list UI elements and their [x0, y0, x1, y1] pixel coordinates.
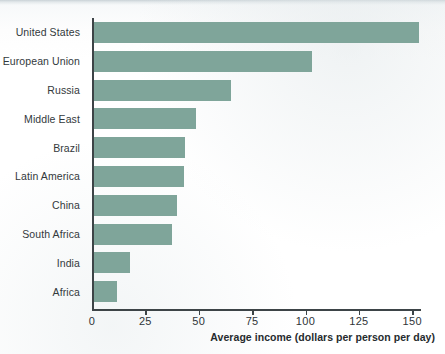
plot-area: [92, 18, 432, 310]
category-label: China: [0, 191, 86, 220]
x-tick-label: 25: [139, 315, 152, 327]
x-axis-title: Average income (dollars per person per d…: [0, 331, 441, 343]
category-label: India: [0, 248, 86, 277]
bar: [94, 22, 419, 43]
x-tick-label: 50: [192, 315, 205, 327]
category-label: Africa: [0, 277, 86, 306]
bar: [94, 166, 184, 187]
category-label: Brazil: [0, 133, 86, 162]
bar: [94, 252, 130, 273]
bar: [94, 281, 117, 302]
x-tick-label: 125: [349, 315, 368, 327]
bar: [94, 80, 231, 101]
x-tick-label: 100: [296, 315, 315, 327]
bar-row: [94, 104, 432, 133]
bar-row: [94, 191, 432, 220]
category-label: United States: [0, 18, 86, 47]
category-axis-labels: United StatesEuropean UnionRussiaMiddle …: [0, 18, 86, 306]
bar-row: [94, 133, 432, 162]
x-tick-label: 150: [403, 315, 422, 327]
category-label: Russia: [0, 76, 86, 105]
bar: [94, 137, 185, 158]
bar-series: [94, 18, 432, 306]
bar-row: [94, 47, 432, 76]
x-tick-label: 0: [89, 315, 95, 327]
bar-row: [94, 220, 432, 249]
bar-row: [94, 162, 432, 191]
bar: [94, 51, 312, 72]
bar: [94, 108, 196, 129]
bar-row: [94, 277, 432, 306]
category-label: South Africa: [0, 220, 86, 249]
bar: [94, 195, 177, 216]
x-axis-tick-labels: 0255075100125150: [92, 315, 432, 329]
bar-row: [94, 18, 432, 47]
bar-row: [94, 248, 432, 277]
category-label: Latin America: [0, 162, 86, 191]
bar: [94, 224, 172, 245]
x-tick-label: 75: [246, 315, 259, 327]
category-label: European Union: [0, 47, 86, 76]
category-label: Middle East: [0, 104, 86, 133]
bar-row: [94, 76, 432, 105]
bar-chart-figure: United StatesEuropean UnionRussiaMiddle …: [0, 0, 445, 354]
